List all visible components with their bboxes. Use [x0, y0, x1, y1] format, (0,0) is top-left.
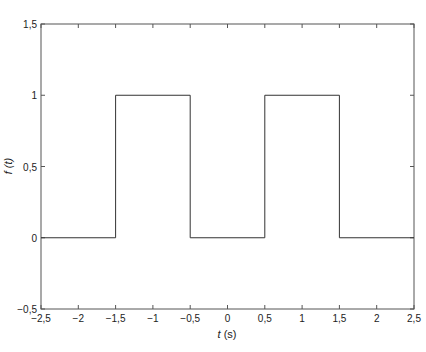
x-tick-label: −0,5 [180, 313, 200, 324]
x-axis-label: t (s) [218, 328, 237, 340]
y-tick-label: 0 [31, 233, 37, 244]
x-tick-label: 2 [374, 313, 380, 324]
y-tick-label: 0,5 [23, 162, 37, 173]
x-tick-label: −1 [147, 313, 159, 324]
x-tick-label: −2 [73, 313, 85, 324]
y-tick-label: −0,5 [17, 304, 37, 315]
plot-area [41, 24, 414, 309]
chart: −2,5−2−1,5−1−0,500,511,522,5−0,500,511,5… [0, 0, 426, 352]
x-tick-label: 0 [225, 313, 231, 324]
x-tick-label: 1 [299, 313, 305, 324]
x-tick-label: −1,5 [106, 313, 126, 324]
y-tick-label: 1,5 [23, 19, 37, 30]
x-tick-label: 0,5 [258, 313, 272, 324]
y-tick-label: 1 [31, 90, 37, 101]
x-tick-label: 1,5 [332, 313, 346, 324]
y-axis-label: f (t) [2, 157, 14, 174]
x-tick-label: 2,5 [407, 313, 421, 324]
